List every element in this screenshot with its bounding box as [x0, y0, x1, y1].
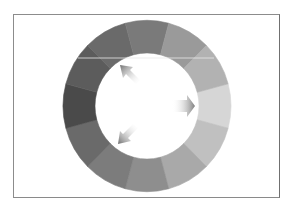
color-wheel	[0, 0, 296, 206]
arrow-up-left-icon	[120, 65, 140, 84]
wheel-segments	[63, 20, 231, 191]
arrow-down-left-icon	[118, 124, 138, 144]
arrow-right-icon	[172, 95, 195, 117]
